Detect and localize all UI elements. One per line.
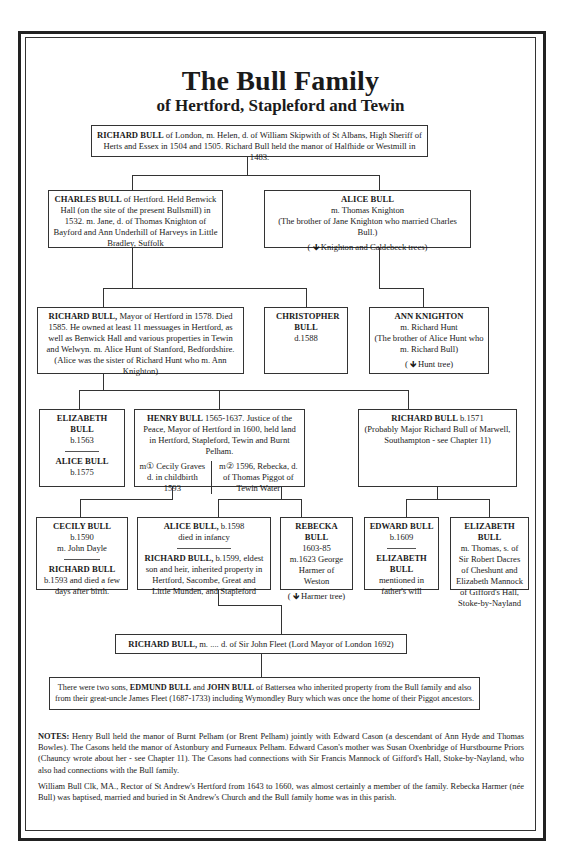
connector — [261, 654, 262, 677]
connector — [408, 390, 409, 409]
person-dates: b.1609 — [369, 532, 434, 543]
person-box-edward-elizabeth-bull: EDWARD BULL b.1609 ELIZABETH BULL mentio… — [364, 517, 439, 590]
connector — [80, 499, 81, 517]
divider — [64, 559, 100, 560]
person-dates: b.1575 — [44, 467, 120, 478]
person-name: HENRY BULL — [147, 413, 203, 423]
person-name: RICHARD BULL, — [128, 639, 197, 649]
connector — [219, 390, 220, 409]
person-details: b.1593 and died a few days after birth. — [41, 575, 123, 597]
connector — [406, 499, 490, 500]
connector — [379, 175, 380, 190]
person-details: m. .... d. of Sir John Fleet (Lord Mayor… — [197, 639, 394, 649]
notes-paragraph-1: NOTES: Henry Bull held the manor of Burn… — [38, 731, 524, 776]
connector — [423, 288, 424, 307]
tree-reference-link[interactable]: ( 🡻 Hunt tree) — [374, 359, 484, 370]
person-name: RICHARD BULL, — [48, 311, 117, 321]
person-box-charles-bull: CHARLES BULL of Hertford. Held Benwick H… — [48, 190, 223, 248]
relation-note: (The brother of Alice Hunt who m. Richar… — [374, 333, 484, 355]
person-box-henry-bull: HENRY BULL 1565-1637. Justice of the Pea… — [134, 409, 305, 487]
person-box-elizabeth-alice-bull: ELIZABETH BULL b.1563 ALICE BULL b.1575 — [39, 409, 125, 487]
tree-reference-link[interactable]: ( 🡻 Knighton and Caldebeck trees) — [269, 242, 466, 253]
tree-reference-link[interactable]: ( 🡻 Harmer tree) — [285, 591, 348, 602]
connector — [218, 499, 302, 500]
connector — [218, 605, 281, 606]
connector — [172, 487, 173, 499]
person-dates: b.1598 — [219, 521, 245, 531]
person-box-alice-bull-knighton: ALICE BULL m. Thomas Knighton (The broth… — [264, 190, 471, 248]
person-name: CHRISTOPHER BULL — [276, 311, 339, 332]
first-marriage: m① Cecily Graves d. in childbirth 1593 — [139, 461, 209, 494]
connector — [80, 499, 173, 500]
person-name: CECILY BULL — [53, 521, 111, 531]
connector — [281, 487, 282, 499]
connector — [218, 499, 219, 517]
connector — [301, 499, 302, 517]
person-box-alice-richard-bull: ALICE BULL, b.1598 died in infancy RICHA… — [137, 517, 271, 590]
person-name: ANN KNIGHTON — [395, 311, 464, 321]
connector — [79, 390, 409, 391]
connector — [103, 374, 104, 390]
person-name: RICHARD BULL, — [145, 553, 214, 563]
person-dates: b.1563 — [44, 435, 120, 446]
connector — [79, 390, 80, 409]
person-name: ELIZABETH BULL — [376, 553, 427, 574]
person-details: m. Thomas, s. of Sir Robert Dacres of Ch… — [455, 543, 524, 609]
marriage-text: m. Richard Hunt — [374, 322, 484, 333]
page-subtitle: of Hertford, Stapleford and Tewin — [0, 96, 561, 116]
relation-note: (Alice was the sister of Richard Hunt wh… — [42, 355, 239, 377]
connector — [103, 288, 104, 307]
notes-label: NOTES: — [38, 732, 69, 741]
person-box-cecily-richard-bull: CECILY BULL b.1590 m. John Dayle RICHARD… — [36, 517, 128, 590]
connector — [132, 175, 133, 190]
person-name: JOHN BULL — [207, 683, 254, 692]
person-dates: b.1571 — [458, 413, 484, 423]
connector — [281, 605, 282, 635]
person-name: RICHARD BULL — [391, 413, 458, 423]
person-name: RICHARD BULL — [49, 564, 116, 574]
person-box-richard-bull-mayor: RICHARD BULL, Mayor of Hertford in 1578.… — [37, 307, 244, 374]
person-name: ALICE BULL, — [164, 521, 219, 531]
person-name: EDMUND BULL — [130, 683, 191, 692]
page-title: The Bull Family — [0, 66, 561, 96]
person-box-christopher-bull: CHRISTOPHER BULL d.1588 — [264, 307, 348, 374]
divider — [65, 451, 98, 452]
connector — [132, 175, 380, 176]
person-details: (Probably Major Richard Bull of Marwell,… — [363, 424, 512, 446]
connector — [437, 487, 438, 499]
person-name: ELIZABETH BULL — [464, 521, 515, 542]
connector — [132, 248, 133, 288]
person-name: ALICE BULL — [341, 194, 394, 204]
person-name: CHARLES BULL — [55, 194, 122, 204]
person-box-richard-bull-london: RICHARD BULL of London, m. Helen, d. of … — [91, 125, 428, 157]
marriage-text: m.1623 George Harmer of Weston — [285, 554, 348, 587]
connector — [218, 590, 219, 605]
person-name: ELIZABETH BULL — [57, 413, 108, 434]
connector — [379, 248, 380, 288]
person-box-richard-bull-1571: RICHARD BULL b.1571 (Probably Major Rich… — [358, 409, 517, 487]
connector — [406, 499, 407, 517]
connector — [379, 288, 423, 289]
marriage-text: m. John Dayle — [41, 543, 123, 554]
person-dates: 1603-85 — [285, 543, 348, 554]
divider — [387, 548, 416, 549]
person-box-rebecka-bull: REBECKA BULL 1603-85 m.1623 George Harme… — [280, 517, 353, 590]
person-name: REBECKA BULL — [295, 521, 338, 542]
person-details: mentioned in father's will — [369, 575, 434, 597]
relation-note: (The brother of Jane Knighton who marrie… — [269, 216, 466, 238]
notes-paragraph-2: William Bull Clk, MA., Rector of St Andr… — [38, 781, 524, 803]
person-details: died in infancy — [142, 532, 266, 543]
connector — [489, 499, 490, 517]
divider — [211, 461, 212, 494]
divider — [177, 548, 232, 549]
connector — [103, 288, 307, 289]
person-name: EDWARD BULL — [370, 521, 434, 531]
connector — [247, 157, 248, 175]
person-box-ann-knighton: ANN KNIGHTON m. Richard Hunt (The brothe… — [369, 307, 489, 374]
second-marriage: m② 1596, Rebecka, d. of Thomas Piggot of… — [214, 461, 300, 494]
person-box-edmund-john-bull: There were two sons, EDMUND BULL and JOH… — [49, 677, 480, 710]
person-dates: b.1590 — [70, 532, 94, 542]
person-dates: d.1588 — [269, 333, 343, 344]
person-name: RICHARD BULL — [97, 130, 164, 140]
person-box-elizabeth-bull-dacres: ELIZABETH BULL m. Thomas, s. of Sir Robe… — [450, 517, 529, 590]
